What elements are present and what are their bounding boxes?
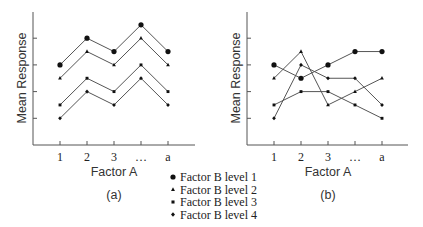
- square-marker-icon: [167, 90, 170, 93]
- circle-marker-icon: [271, 62, 276, 67]
- x-tick-label: 3: [325, 150, 331, 164]
- square-marker-icon: [171, 200, 174, 203]
- square-marker-icon: [327, 90, 330, 93]
- triangle-marker-icon: [299, 49, 303, 53]
- triangle-marker-icon: [171, 187, 175, 191]
- legend: Factor B level 1Factor B level 2Factor B…: [170, 170, 257, 222]
- circle-marker-icon: [111, 49, 116, 54]
- series-lines: [57, 22, 170, 120]
- series-line: [60, 78, 168, 118]
- triangle-marker-icon: [85, 49, 89, 53]
- y-ticks: [33, 38, 37, 118]
- circle-marker-icon: [84, 36, 89, 41]
- legend-item: Factor B level 4: [171, 208, 257, 222]
- interaction-plots: 123…a Mean Response Factor A (a) 123…a M…: [0, 0, 423, 227]
- panel-label: (a): [106, 188, 121, 202]
- x-tick-label: 1: [57, 150, 63, 164]
- series-triangle: [58, 36, 170, 80]
- circle-marker-icon: [165, 49, 170, 54]
- x-ticks: 123…a: [57, 141, 171, 164]
- square-marker-icon: [113, 90, 116, 93]
- x-tick-label: …: [349, 150, 361, 164]
- square-marker-icon: [59, 104, 62, 107]
- x-axis-title: Factor A: [305, 165, 352, 179]
- square-marker-icon: [300, 90, 303, 93]
- circle-marker-icon: [298, 76, 303, 81]
- series-lines: [271, 49, 384, 120]
- x-tick-label: …: [135, 150, 147, 164]
- diamond-marker-icon: [299, 63, 303, 67]
- diamond-marker-icon: [272, 116, 276, 120]
- y-axis-title: Mean Response: [15, 32, 29, 123]
- circle-marker-icon: [352, 49, 357, 54]
- square-marker-icon: [381, 117, 384, 120]
- series-line: [60, 65, 168, 105]
- x-tick-label: a: [165, 150, 171, 164]
- square-marker-icon: [86, 77, 89, 80]
- y-ticks: [247, 38, 251, 118]
- x-tick-label: 1: [271, 150, 277, 164]
- panel-a-plot: 123…a Mean Response Factor A (a): [15, 12, 195, 202]
- circle-marker-icon: [138, 22, 143, 27]
- series-diamond: [58, 76, 170, 120]
- square-marker-icon: [140, 63, 143, 66]
- triangle-marker-icon: [139, 36, 143, 40]
- series-circle: [57, 22, 170, 67]
- triangle-marker-icon: [380, 76, 384, 80]
- circle-marker-icon: [379, 49, 384, 54]
- legend-label: Factor B level 4: [180, 208, 257, 222]
- series-line: [60, 38, 168, 78]
- x-axis-title: Factor A: [91, 165, 138, 179]
- circle-marker-icon: [57, 62, 62, 67]
- series-circle: [271, 49, 384, 81]
- x-ticks: 123…a: [271, 141, 385, 164]
- series-line: [60, 25, 168, 65]
- x-tick-label: 2: [84, 150, 90, 164]
- circle-marker-icon: [170, 174, 175, 179]
- circle-marker-icon: [325, 62, 330, 67]
- square-marker-icon: [354, 104, 357, 107]
- y-axis-title: Mean Response: [229, 32, 243, 123]
- series-square: [59, 63, 170, 106]
- panel-label: (b): [320, 188, 335, 202]
- diamond-marker-icon: [171, 212, 175, 216]
- x-tick-label: a: [379, 150, 385, 164]
- square-marker-icon: [273, 104, 276, 107]
- x-tick-label: 2: [298, 150, 304, 164]
- diamond-marker-icon: [326, 76, 330, 80]
- x-tick-label: 3: [111, 150, 117, 164]
